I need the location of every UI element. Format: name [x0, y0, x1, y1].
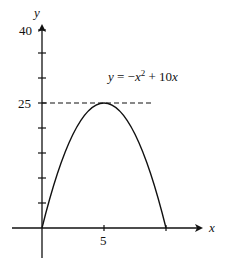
x-axis-label: x — [208, 220, 215, 235]
equation-label: y = −x2 + 10x — [106, 68, 178, 84]
parabola-curve — [42, 103, 166, 228]
y-tick-label-25: 25 — [18, 96, 31, 111]
parabola-chart: y 40 25 5 x y = −x2 + 10x — [0, 0, 228, 274]
x-tick-label-5: 5 — [100, 233, 107, 248]
y-axis-label: y — [32, 5, 40, 20]
y-tick-label-40: 40 — [19, 23, 32, 38]
